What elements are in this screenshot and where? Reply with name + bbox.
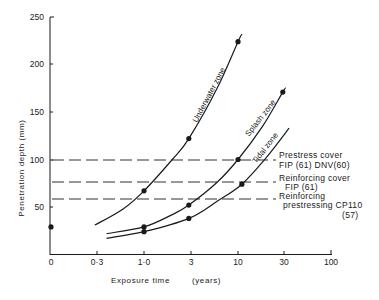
x-tick-label: 3 [189,257,194,267]
x-axis-title: Exposure time [111,276,170,285]
y-axis-title: Penetration depth (mm) [17,119,26,216]
x-axis: 0 0·3 1·0 3 10 30 100 Exposure time (yea… [49,250,339,285]
x-axis-unit: (years) [192,276,221,285]
annotation-text: (57) [342,210,358,220]
data-point [280,90,285,95]
y-tick-label: 250 [30,12,44,22]
data-point [186,216,191,221]
x-tick-label: 0·3 [91,257,104,267]
x-tick-label: 1·0 [138,257,151,267]
x-tick-label: 100 [324,257,338,267]
data-point [186,136,191,141]
y-tick-label: 50 [35,202,45,212]
annotation-text: prestressing CP110 [283,200,362,210]
curves [95,34,289,238]
y-tick-label: 150 [30,107,44,117]
y-axis: 250 200 150 100 50 Penetration depth (mm… [17,12,54,255]
reference-annotations: Prestress cover FIP (61) DNV(60) Reinfor… [279,150,362,220]
underwater-zone-label: Underwater zone [191,65,228,124]
data-point [141,224,146,229]
data-point [239,182,244,187]
penetration-depth-chart: 250 200 150 100 50 Penetration depth (mm… [0,0,379,300]
x-tick-label: 30 [279,257,289,267]
data-point [235,157,240,162]
annotation-text: Prestress cover [279,150,343,160]
x-tick-label: 0 [49,257,54,267]
underwater-zone-curve [95,34,242,225]
annotation-text: FIP (61) DNV(60) [279,160,350,170]
y-tick-label: 200 [30,59,44,69]
y-tick-label: 100 [30,155,44,165]
data-point [141,188,146,193]
data-point [141,229,146,234]
data-point [48,224,53,229]
data-point [235,39,240,44]
data-point [186,203,191,208]
x-tick-label: 10 [233,257,243,267]
reference-lines [52,160,276,199]
